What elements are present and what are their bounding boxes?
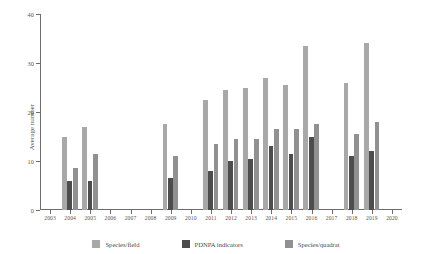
x-tick: [191, 210, 192, 214]
x-tick-label: 2011: [205, 215, 216, 221]
bar: [163, 124, 168, 210]
bar: [62, 137, 67, 211]
y-tick-label: 20: [27, 109, 34, 116]
bar: [364, 43, 369, 210]
bar: [254, 139, 259, 210]
bar: [73, 168, 78, 210]
chart-figure: Average number 010203040 200320042005200…: [0, 0, 432, 254]
bar: [168, 178, 173, 210]
y-tick-label: 30: [27, 60, 34, 67]
x-tick-label: 2013: [245, 215, 257, 221]
legend-label: Species/quadrat: [298, 241, 340, 248]
bar: [314, 124, 319, 210]
bar: [234, 139, 239, 210]
y-tick: [36, 210, 40, 211]
y-tick: [36, 14, 40, 15]
x-tick: [50, 210, 51, 214]
x-tick-label: 2016: [306, 215, 318, 221]
y-tick: [36, 112, 40, 113]
x-tick-label: 2012: [225, 215, 237, 221]
bar: [274, 129, 279, 210]
y-tick-label: 10: [27, 158, 34, 165]
legend-swatch-icon: [92, 240, 100, 248]
x-tick: [291, 210, 292, 214]
y-tick: [36, 63, 40, 64]
x-tick-label: 2004: [64, 215, 76, 221]
bar: [263, 78, 268, 210]
bar: [67, 181, 72, 210]
x-tick: [251, 210, 252, 214]
bar: [228, 161, 233, 210]
bar: [223, 90, 228, 210]
legend-label: Species/field: [105, 241, 139, 248]
x-tick-label: 2017: [326, 215, 338, 221]
bar: [243, 88, 248, 211]
y-tick-label: 40: [27, 11, 34, 18]
bar: [309, 137, 314, 211]
y-axis-line: [40, 14, 41, 210]
legend-label: PDNPA indicators: [195, 241, 243, 248]
bar: [93, 154, 98, 210]
x-tick: [70, 210, 71, 214]
x-tick: [171, 210, 172, 214]
bar: [248, 159, 253, 210]
x-tick-label: 2005: [84, 215, 96, 221]
x-tick: [231, 210, 232, 214]
legend-item[interactable]: PDNPA indicators: [182, 240, 243, 248]
x-tick-label: 2009: [165, 215, 177, 221]
bar: [375, 122, 380, 210]
x-tick-label: 2019: [366, 215, 378, 221]
bar: [344, 83, 349, 210]
bar: [303, 46, 308, 210]
bar: [203, 100, 208, 210]
x-tick: [110, 210, 111, 214]
x-tick-label: 2010: [185, 215, 197, 221]
x-tick-label: 2003: [44, 215, 56, 221]
x-tick-label: 2020: [386, 215, 398, 221]
bar: [289, 154, 294, 210]
x-tick: [90, 210, 91, 214]
chart-legend: Species/fieldPDNPA indicatorsSpecies/qua…: [0, 240, 432, 248]
bar: [283, 85, 288, 210]
plot-area: 010203040 200320042005200620072008200920…: [40, 14, 402, 210]
x-tick: [271, 210, 272, 214]
x-tick-label: 2008: [145, 215, 157, 221]
bar: [88, 181, 93, 210]
bar: [349, 156, 354, 210]
x-tick-label: 2018: [346, 215, 358, 221]
legend-item[interactable]: Species/field: [92, 240, 139, 248]
bar: [173, 156, 178, 210]
bar: [208, 171, 213, 210]
bar: [294, 129, 299, 210]
x-tick: [211, 210, 212, 214]
bar: [214, 144, 219, 210]
x-tick: [392, 210, 393, 214]
x-tick: [352, 210, 353, 214]
legend-swatch-icon: [285, 240, 293, 248]
y-tick-label: 0: [31, 207, 34, 214]
bar: [82, 127, 87, 210]
bar: [269, 146, 274, 210]
x-tick-label: 2015: [286, 215, 298, 221]
legend-item[interactable]: Species/quadrat: [285, 240, 340, 248]
x-tick: [332, 210, 333, 214]
legend-swatch-icon: [182, 240, 190, 248]
x-tick-label: 2014: [265, 215, 277, 221]
x-tick: [151, 210, 152, 214]
x-tick: [372, 210, 373, 214]
bar: [369, 151, 374, 210]
y-tick: [36, 161, 40, 162]
x-tick: [131, 210, 132, 214]
x-tick-label: 2007: [125, 215, 137, 221]
bar: [354, 134, 359, 210]
x-tick-label: 2006: [105, 215, 117, 221]
x-tick: [312, 210, 313, 214]
